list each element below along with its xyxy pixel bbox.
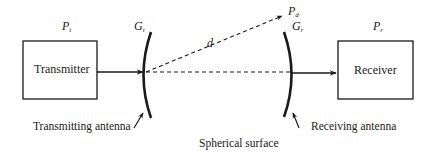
power-density-label: Pd: [288, 5, 299, 19]
receiving-antenna-label: Receiving antenna: [311, 121, 396, 133]
distance-arrow: [146, 16, 282, 72]
transmitting-antenna-label: Transmitting antenna: [33, 121, 131, 133]
receiving-antenna-icon: [284, 32, 292, 117]
transmitter-label: Transmitter: [34, 63, 90, 75]
receiving-antenna-pointer: [293, 113, 299, 128]
transmitting-antenna-icon: [144, 32, 152, 118]
receive-power-label: Pr: [373, 20, 383, 34]
distance-label: d: [207, 37, 213, 49]
transmitting-antenna-pointer: [134, 113, 143, 128]
transmit-power-label: Pt: [62, 20, 71, 34]
receive-gain-label: Gr: [292, 20, 303, 34]
receiver-label: Receiver: [354, 64, 397, 76]
transmit-gain-label: Gt: [134, 20, 145, 34]
spherical-surface-label: Spherical surface: [199, 138, 279, 150]
